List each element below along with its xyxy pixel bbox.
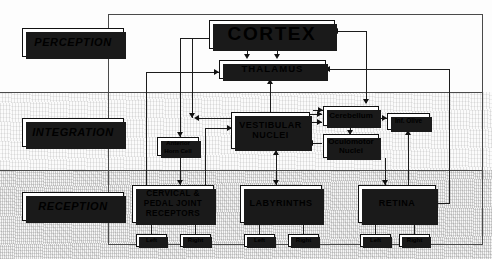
diagram-canvas: PERCEPTION INTEGRATION RECEPTION CORTEX … <box>0 0 492 259</box>
line-vestibular-left-out <box>196 118 232 119</box>
line-cortex-left-down <box>192 38 193 118</box>
divider-integration-reception <box>0 170 483 171</box>
line-cortex-descend-stub <box>180 38 210 39</box>
node-oculomotor-nuclei-label: Oculomotor Nuclei <box>324 137 378 155</box>
chip-cervical-right: Right <box>180 234 211 247</box>
level-label-perception-text: PERCEPTION <box>23 37 123 49</box>
arrow-into-cerebellum-top <box>363 99 369 104</box>
chip-labyrinths-left: Left <box>244 234 275 247</box>
level-label-reception-text: RECEPTION <box>23 201 123 213</box>
line-retina-to-right-spine <box>436 203 450 204</box>
chip-retina-left-label: Left <box>361 237 390 243</box>
chip-retina-right-label: Right <box>400 237 429 243</box>
frame-right <box>482 14 483 245</box>
chip-retina-right: Right <box>399 234 430 247</box>
chip-labyrinths-left-label: Left <box>245 237 274 243</box>
chip-cervical-left: Left <box>136 234 167 247</box>
line-into-infolive-up <box>408 130 409 190</box>
divider-perception-integration <box>0 92 483 93</box>
line-left-spine <box>146 72 147 185</box>
line-cortex-right-down <box>366 31 367 103</box>
line-cervical-up <box>205 128 206 185</box>
node-inferior-olive-label: Inf. Olive <box>388 118 429 125</box>
chip-labyrinths-right: Right <box>288 234 319 247</box>
node-labyrinths: LABYRINTHS <box>240 185 322 223</box>
node-anterior-horn-cell-label: Anterior Horn Cell <box>158 139 198 153</box>
node-oculomotor-nuclei: Oculomotor Nuclei <box>323 134 379 158</box>
node-thalamus-label: THALAMUS <box>220 64 325 74</box>
line-cortex-right <box>335 31 367 32</box>
level-label-integration: INTEGRATION <box>22 118 124 147</box>
chip-retina-left: Left <box>360 234 391 247</box>
chip-cervical-left-label: Left <box>137 237 166 243</box>
line-cortex-to-anterior <box>180 38 181 137</box>
node-cerebellum-label: Cerebellum <box>324 112 378 121</box>
frame-top <box>108 14 483 15</box>
chip-cervical-right-label: Right <box>181 237 210 243</box>
level-label-reception: RECEPTION <box>22 192 124 221</box>
arrow-vestibular-left <box>194 115 199 121</box>
node-retina: RETINA <box>358 185 436 223</box>
arrow-vest-cereb-b <box>317 119 322 125</box>
line-far-right-spine <box>449 69 450 204</box>
node-vestibular-nuclei: VESTIBULAR NUCLEI <box>231 112 310 149</box>
level-label-perception: PERCEPTION <box>22 28 124 57</box>
node-cervical-label: CERVICAL & PEDAL JOINT RECEPTORS <box>133 189 213 219</box>
chip-labyrinths-right-label: Right <box>289 237 318 243</box>
level-label-integration-text: INTEGRATION <box>23 127 123 139</box>
node-thalamus: THALAMUS <box>219 60 326 79</box>
node-vestibular-nuclei-label: VESTIBULAR NUCLEI <box>232 121 309 140</box>
node-inferior-olive: Inf. Olive <box>387 113 430 130</box>
node-cerebellum: Cerebellum <box>323 106 379 126</box>
arrow-cortex-thalamus-b <box>274 54 280 59</box>
node-cortex: CORTEX <box>209 20 335 49</box>
arrow-cortex-thalamus-a <box>244 54 250 59</box>
line-left-spine-to-thalamus <box>146 72 219 73</box>
node-cortex-label: CORTEX <box>210 24 334 45</box>
node-anterior-horn-cell: Anterior Horn Cell <box>157 137 199 156</box>
line-right-to-thalamus <box>326 69 450 70</box>
node-cervical-pedal-joint-receptors: CERVICAL & PEDAL JOINT RECEPTORS <box>132 185 214 223</box>
node-retina-label: RETINA <box>359 199 435 209</box>
node-labyrinths-label: LABYRINTHS <box>241 199 321 209</box>
